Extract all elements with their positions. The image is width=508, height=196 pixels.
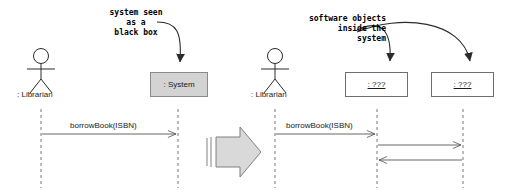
message-label-borrowbook-right: borrowBook(ISBN) bbox=[286, 121, 353, 130]
actor-label-librarian-left: : Librarian bbox=[17, 90, 53, 99]
participant-box-system[interactable]: : System bbox=[150, 72, 208, 97]
annotation-black-box-line1: system seen bbox=[110, 8, 163, 17]
annotation-software-objects: software objects inside the system bbox=[268, 14, 386, 44]
actor-label-librarian-right: : Librarian bbox=[251, 90, 287, 99]
message-label-borrowbook-left: borrowBook(ISBN) bbox=[70, 121, 137, 130]
annotation-software-objects-line2: inside the bbox=[338, 24, 386, 33]
annotation-software-objects-line1: software objects bbox=[309, 14, 386, 23]
actor-stick-figure-icon bbox=[261, 49, 289, 94]
participant-label-object-1: : ??? bbox=[368, 80, 386, 89]
annotation-black-box: system seen as a black box bbox=[86, 8, 186, 38]
actor-stick-figure-icon bbox=[27, 49, 55, 94]
participant-label-system: : System bbox=[163, 80, 194, 89]
sequence-diagram-canvas: system seen as a black box software obje… bbox=[0, 0, 508, 196]
participant-box-object-2[interactable]: : ??? bbox=[431, 72, 494, 97]
annotation-black-box-line2: as a bbox=[126, 18, 145, 27]
block-arrow-right-icon bbox=[207, 127, 261, 177]
annotation-black-box-line3: black box bbox=[114, 28, 157, 37]
participant-label-object-2: : ??? bbox=[454, 80, 472, 89]
participant-box-object-1[interactable]: : ??? bbox=[345, 72, 408, 97]
annotation-software-objects-line3: system bbox=[357, 34, 386, 43]
